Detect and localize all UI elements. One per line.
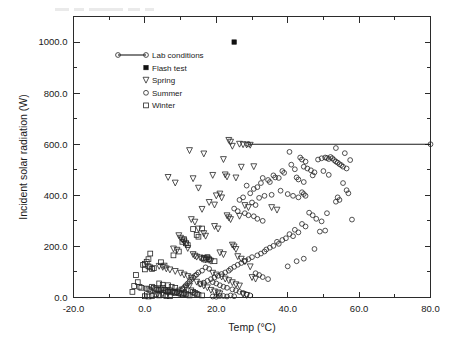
data-point	[246, 205, 252, 211]
data-series-layer	[130, 40, 433, 299]
data-point	[260, 218, 265, 223]
y-tick-label: 600.0	[44, 139, 68, 150]
data-point	[253, 203, 258, 208]
data-point	[287, 149, 292, 154]
data-point	[319, 219, 324, 224]
legend-label: Summer	[152, 89, 183, 98]
data-point	[233, 175, 239, 181]
data-point	[276, 176, 281, 181]
data-point	[238, 164, 244, 170]
data-point	[196, 234, 201, 239]
data-point	[221, 157, 227, 163]
data-point	[294, 259, 299, 264]
y-tick-label: 1000.0	[38, 36, 67, 47]
x-tick-label: 80.0	[421, 303, 440, 314]
data-point	[342, 151, 347, 156]
y-tick-label: 200.0	[44, 241, 68, 252]
data-point	[247, 264, 253, 270]
data-point	[196, 185, 202, 191]
data-point	[314, 216, 319, 221]
legend-item-lab-conditions: Lab conditions	[116, 51, 204, 60]
data-point	[325, 211, 330, 216]
data-point	[296, 230, 301, 235]
data-point	[134, 273, 139, 278]
data-point	[191, 227, 196, 232]
y-tick-label: 0.0	[54, 292, 67, 303]
data-point	[226, 137, 232, 143]
data-point	[248, 191, 253, 196]
data-point	[206, 200, 212, 206]
data-point	[160, 282, 165, 287]
y-axis-ticks	[74, 17, 431, 298]
data-point	[229, 242, 235, 248]
data-point	[259, 181, 264, 186]
y-axis-title: Incident solar radiation (W)	[17, 94, 29, 219]
data-point	[296, 195, 301, 200]
legend-label: Winter	[152, 101, 175, 110]
data-point	[192, 219, 198, 225]
y-tick-label: 400.0	[44, 190, 68, 201]
legend-item-flash-test: Flash test	[144, 64, 188, 73]
data-point	[333, 146, 338, 151]
data-point	[159, 260, 164, 265]
data-point	[212, 202, 218, 208]
data-point	[215, 226, 221, 232]
data-point	[174, 247, 180, 253]
data-point	[260, 176, 265, 181]
data-point	[269, 205, 275, 211]
data-point	[312, 247, 317, 252]
data-point	[130, 289, 135, 294]
data-point	[237, 213, 243, 219]
x-tick-label: -20.0	[63, 303, 85, 314]
x-axis-title: Temp (°C)	[228, 321, 275, 333]
data-point	[285, 264, 290, 269]
data-point	[301, 256, 306, 261]
y-axis-tick-labels: 0.0200.0400.0600.0800.01000.0	[38, 36, 67, 302]
data-point	[172, 180, 178, 186]
data-point	[194, 233, 199, 238]
figure-container: -20.00.020.040.060.080.0 0.0200.0400.060…	[0, 0, 453, 348]
data-point	[321, 169, 326, 174]
data-point	[341, 181, 346, 186]
legend-label: Lab conditions	[152, 51, 204, 60]
data-point	[348, 158, 353, 163]
legend-item-spring: Spring	[143, 76, 175, 85]
data-point	[285, 192, 290, 197]
data-point	[199, 206, 205, 212]
series-flash-test	[232, 40, 236, 44]
data-point	[269, 192, 274, 197]
data-point	[171, 253, 176, 258]
data-point	[274, 207, 280, 213]
data-point	[244, 183, 249, 188]
x-axis-ticks	[74, 17, 431, 298]
series-lab-conditions	[246, 142, 433, 147]
data-point	[187, 148, 193, 154]
data-point	[266, 277, 271, 282]
data-point	[232, 40, 236, 44]
data-point	[167, 267, 173, 273]
data-point	[201, 151, 207, 157]
data-point	[143, 267, 148, 272]
plot-frame	[74, 17, 431, 298]
data-point	[251, 164, 257, 170]
legend-label: Spring	[152, 76, 175, 85]
data-point	[317, 229, 322, 234]
data-point	[303, 224, 308, 229]
chart-legend: Lab conditionsFlash testSpringSummerWint…	[116, 51, 204, 110]
data-point	[301, 180, 306, 185]
legend-label: Flash test	[152, 64, 187, 73]
data-point	[262, 193, 267, 198]
x-tick-label: 40.0	[278, 303, 297, 314]
data-point	[235, 209, 240, 214]
data-point	[237, 198, 242, 203]
data-point	[166, 283, 171, 288]
data-point	[221, 252, 227, 258]
data-point	[257, 195, 262, 200]
data-point	[291, 193, 296, 198]
data-point	[323, 228, 328, 233]
data-point	[172, 269, 178, 275]
data-point	[210, 172, 216, 178]
data-point	[350, 217, 355, 222]
data-point	[326, 172, 331, 177]
data-point	[289, 162, 294, 167]
